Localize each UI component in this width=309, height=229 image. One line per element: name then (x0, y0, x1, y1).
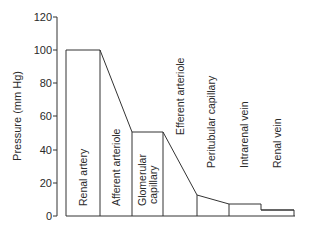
y-tick-labels: 0 20 40 60 80 100 120 (34, 11, 52, 222)
y-axis-title: Pressure (mm Hg) (11, 71, 23, 161)
segment-label-glomerular-line2: capillary (147, 165, 159, 204)
renal-pressure-chart: 0 20 40 60 80 100 120 Pressure (mm Hg) R… (0, 0, 309, 229)
tick-label-60: 60 (40, 110, 52, 122)
tick-label-120: 120 (34, 11, 52, 23)
tick-label-80: 80 (40, 77, 52, 89)
segment-label-renal-vein: Renal vein (271, 118, 283, 168)
tick-label-40: 40 (40, 144, 52, 156)
tick-label-100: 100 (34, 44, 52, 56)
segment-label-efferent-arteriole: Efferent arteriole (174, 57, 186, 135)
segment-label-peritubular-capillary: Peritubular capillary (205, 75, 217, 168)
segment-label-renal-artery: Renal artery (77, 148, 89, 206)
segment-label-intrarenal-vein: Intrarenal vein (238, 101, 250, 168)
tick-label-0: 0 (46, 210, 52, 222)
tick-label-20: 20 (40, 177, 52, 189)
y-ticks (53, 17, 57, 216)
segment-label-afferent-arteriole: Afferent arteriole (110, 128, 122, 206)
